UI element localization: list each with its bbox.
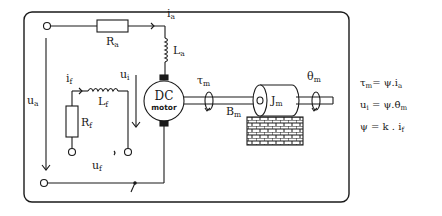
terminal-bottom-left — [41, 180, 48, 187]
label-if: if — [66, 73, 72, 86]
label-ua: ua — [27, 95, 39, 108]
terminal-field-right — [125, 149, 132, 156]
label-theta: θm — [307, 71, 321, 84]
label-ui: ui — [120, 69, 130, 82]
resistor-rf — [66, 106, 78, 137]
label-ra: Ra — [106, 36, 119, 49]
mechanical-load — [184, 85, 333, 145]
label-lf: Lf — [98, 96, 108, 109]
label-bm: Bm — [226, 106, 241, 119]
equation-flux: ψ = k . if — [360, 122, 404, 134]
label-la: La — [173, 45, 185, 58]
resistor-ra — [97, 20, 128, 32]
motor-label-motor: motor — [144, 104, 184, 112]
equation-back-emf: ui = ψ.θ̇m — [360, 100, 407, 112]
label-ia: ia — [167, 8, 175, 21]
inductor-lf — [88, 89, 118, 92]
label-tau: τm — [197, 75, 210, 88]
brick-support — [247, 117, 303, 145]
terminal-top-left — [44, 23, 51, 30]
terminal-field-left — [69, 149, 76, 156]
field-circuit — [66, 75, 140, 156]
brush-bottom — [160, 121, 168, 126]
brush-top — [160, 75, 168, 80]
equation-torque: τm= ψ.ia — [360, 78, 402, 90]
label-rf: Rf — [81, 117, 92, 130]
label-uf: uf — [92, 160, 102, 173]
inductor-la — [165, 38, 168, 62]
motor-label-dc: DC — [144, 90, 184, 102]
label-jm: Jm — [271, 95, 283, 108]
